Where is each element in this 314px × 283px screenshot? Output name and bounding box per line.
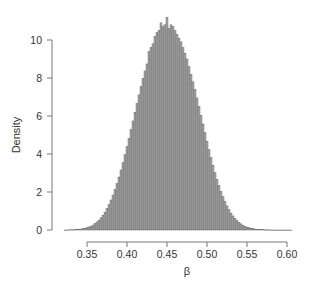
histogram-bar [128, 138, 130, 230]
histogram-bar [78, 229, 80, 230]
histogram-bar [252, 229, 254, 230]
y-tick-label: 10 [30, 34, 42, 46]
histogram-bar [226, 206, 228, 230]
histogram-bar [212, 165, 214, 230]
histogram-bar [168, 29, 170, 230]
histogram-bar [146, 64, 148, 230]
histogram-bar [242, 225, 244, 230]
histogram-bar [150, 48, 152, 230]
histogram-bar [174, 31, 176, 231]
histogram-bar [126, 147, 128, 230]
x-tick-label: 0.40 [117, 248, 138, 260]
histogram-bar [194, 89, 196, 230]
histogram-bar [114, 190, 116, 230]
histogram-bar [210, 158, 212, 230]
histogram-bar [108, 205, 110, 230]
histogram-bar [164, 25, 166, 230]
histogram-bar [172, 27, 174, 230]
histogram-bar [112, 195, 114, 230]
histogram-bar [152, 44, 154, 230]
histogram-bar [106, 209, 108, 230]
histogram-bar [200, 115, 202, 230]
histogram-bars [64, 17, 292, 230]
histogram-bar [86, 228, 88, 230]
histogram-bar [198, 107, 200, 231]
histogram-bar [138, 95, 140, 230]
histogram-bar [116, 183, 118, 230]
x-axis-title: β [184, 265, 190, 277]
histogram-bar [148, 51, 150, 230]
x-axis-ticks: 0.350.400.450.500.550.60 [77, 242, 298, 260]
histogram-bar [248, 228, 250, 230]
histogram-bar [94, 224, 96, 230]
histogram-bar [156, 32, 158, 230]
histogram-bar [140, 87, 142, 230]
histogram-bar [244, 226, 246, 230]
histogram-bar [182, 48, 184, 230]
histogram-bar [224, 202, 226, 231]
x-tick-label: 0.55 [237, 248, 258, 260]
histogram-bar [158, 31, 160, 231]
histogram-bar [82, 229, 84, 230]
histogram-bar [190, 74, 192, 230]
histogram-bar [132, 121, 134, 230]
histogram-bar [96, 222, 98, 230]
histogram-bar [160, 23, 162, 230]
histogram-bar [240, 224, 242, 230]
histogram-chart: 0246810 0.350.400.450.500.550.60 Density… [0, 0, 314, 283]
y-tick-label: 6 [36, 110, 42, 122]
histogram-bar [246, 227, 248, 230]
x-tick-label: 0.45 [157, 248, 178, 260]
histogram-bar [222, 197, 224, 230]
histogram-bar [178, 38, 180, 230]
histogram-bar [230, 213, 232, 230]
histogram-bar [142, 79, 144, 230]
histogram-bar [202, 124, 204, 230]
y-tick-label: 8 [36, 72, 42, 84]
y-tick-label: 4 [36, 148, 42, 160]
y-axis-title: Density [10, 116, 22, 153]
y-axis-ticks: 0246810 [30, 34, 52, 236]
histogram-bar [110, 200, 112, 230]
histogram-bar [154, 36, 156, 230]
histogram-bar [90, 226, 92, 230]
histogram-bar [258, 229, 260, 230]
y-tick-label: 0 [36, 224, 42, 236]
histogram-bar [122, 163, 124, 230]
histogram-bar [104, 212, 106, 230]
histogram-bar [188, 67, 190, 230]
histogram-bar [170, 25, 172, 230]
histogram-bar [130, 130, 132, 230]
histogram-bar [204, 133, 206, 230]
histogram-bar [208, 150, 210, 230]
histogram-bar [220, 191, 222, 230]
histogram-bar [166, 17, 168, 230]
histogram-bar [100, 218, 102, 230]
histogram-bar [120, 170, 122, 230]
histogram-bar [180, 42, 182, 230]
x-tick-label: 0.60 [277, 248, 298, 260]
histogram-bar [80, 229, 82, 230]
histogram-bar [124, 155, 126, 230]
histogram-bar [232, 216, 234, 230]
histogram-bar [254, 229, 256, 230]
histogram-bar [134, 112, 136, 230]
x-tick-label: 0.50 [197, 248, 218, 260]
histogram-bar [238, 222, 240, 230]
histogram-bar [228, 210, 230, 230]
histogram-bar [192, 82, 194, 230]
histogram-bar [88, 227, 90, 230]
histogram-bar [102, 215, 104, 230]
histogram-bar [206, 141, 208, 230]
histogram-bar [218, 186, 220, 230]
histogram-bar [136, 103, 138, 230]
histogram-bar [184, 53, 186, 230]
histogram-bar [118, 177, 120, 230]
histogram-bar [84, 228, 86, 230]
histogram-bar [214, 172, 216, 230]
histogram-bar [196, 98, 198, 230]
histogram-bar [216, 179, 218, 230]
y-tick-label: 2 [36, 186, 42, 198]
histogram-bar [256, 229, 258, 230]
histogram-bar [234, 218, 236, 230]
